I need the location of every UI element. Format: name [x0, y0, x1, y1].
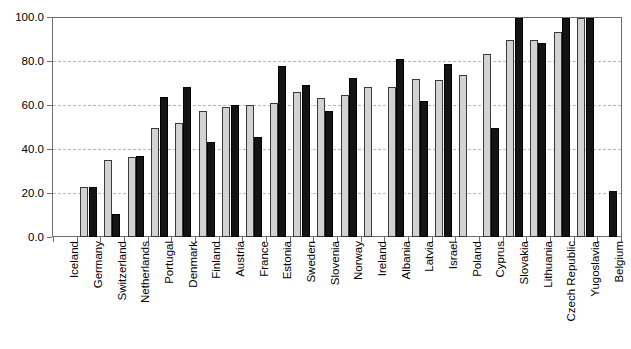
bar-group	[597, 18, 621, 237]
bar-denmark-s1	[175, 123, 183, 237]
bar-group	[171, 18, 195, 237]
bar-albania-s1	[388, 87, 396, 237]
bar-cyprus-s2	[491, 128, 499, 238]
bar-sweden-s1	[293, 92, 301, 237]
bar-lithuania-s1	[530, 40, 538, 237]
bar-belgium-s2	[609, 191, 617, 237]
x-axis-labels: IcelandGermanySwitzerlandNetherlandsPort…	[53, 241, 621, 349]
bar-group	[455, 18, 479, 237]
x-label-portugal: Portugal	[164, 241, 176, 284]
y-tick-label: 20.0	[0, 188, 44, 200]
y-axis-labels: 100.0 80.0 60.0 40.0 20.0 0.0	[0, 0, 48, 349]
x-label-denmark: Denmark	[188, 241, 200, 288]
bar-group	[242, 18, 266, 237]
x-label-belgium: Belgium	[614, 241, 626, 283]
bar-norway-s1	[341, 95, 349, 237]
bar-denmark-s2	[183, 87, 191, 237]
bar-austria-s2	[231, 105, 239, 237]
bar-ireland-s1	[364, 87, 372, 237]
bar-chart: 100.0 80.0 60.0 40.0 20.0 0.0 IcelandGer…	[0, 0, 631, 349]
bar-group	[290, 18, 314, 237]
x-label-lithuania: Lithuania	[543, 241, 555, 288]
x-label-norway: Norway	[353, 241, 365, 280]
bar-netherlands-s1	[128, 157, 136, 237]
x-label-albania: Albania	[401, 241, 413, 279]
bar-portugal-s1	[151, 128, 159, 238]
y-tick-mark	[47, 237, 52, 238]
bar-group	[266, 18, 290, 237]
bar-group	[77, 18, 101, 237]
bar-group	[432, 18, 456, 237]
bar-group	[313, 18, 337, 237]
bar-latvia-s1	[412, 79, 420, 237]
bar-group	[526, 18, 550, 237]
x-label-netherlands: Netherlands	[140, 241, 152, 303]
bar-slovenia-s2	[325, 111, 333, 237]
bar-israel-s1	[435, 80, 443, 237]
y-tick-label: 60.0	[0, 100, 44, 112]
x-label-yugoslavia: Yugoslavia	[590, 241, 602, 297]
bar-austria-s1	[222, 107, 230, 237]
bar-group	[574, 18, 598, 237]
bar-switzerland-s1	[104, 160, 112, 237]
bar-group	[503, 18, 527, 237]
bar-group	[337, 18, 361, 237]
bar-finland-s2	[207, 142, 215, 237]
y-tick-label: 100.0	[0, 12, 44, 24]
bar-france-s2	[254, 137, 262, 237]
bar-latvia-s2	[420, 101, 428, 237]
x-label-sweden: Sweden	[306, 241, 318, 283]
x-label-czech-republic: Czech Republic	[566, 241, 578, 322]
bar-israel-s2	[444, 64, 452, 237]
bar-group	[148, 18, 172, 237]
x-label-latvia: Latvia	[424, 241, 436, 272]
bar-slovakia-s1	[506, 40, 514, 237]
bar-cyprus-s1	[483, 54, 491, 237]
x-label-finland: Finland	[211, 241, 223, 279]
bar-germany-s2	[89, 187, 97, 237]
x-label-switzerland: Switzerland	[117, 241, 129, 300]
bar-poland-s1	[459, 75, 467, 237]
bar-slovakia-s2	[515, 18, 523, 237]
x-label-austria: Austria	[235, 241, 247, 277]
bar-czech-republic-s1	[554, 32, 562, 237]
bar-group	[124, 18, 148, 237]
bar-group	[361, 18, 385, 237]
x-label-cyprus: Cyprus	[495, 241, 507, 277]
bar-germany-s1	[80, 187, 88, 237]
x-label-estonia: Estonia	[282, 241, 294, 279]
bar-group	[384, 18, 408, 237]
bar-estonia-s1	[270, 103, 278, 237]
bar-slovenia-s1	[317, 98, 325, 237]
bar-lithuania-s2	[538, 43, 546, 237]
bar-group	[479, 18, 503, 237]
bar-france-s1	[246, 105, 254, 237]
x-label-iceland: Iceland	[69, 241, 81, 278]
bar-netherlands-s2	[136, 156, 144, 237]
bar-czech-republic-s2	[562, 18, 570, 237]
bar-norway-s2	[349, 78, 357, 237]
x-label-israel: Israel	[448, 241, 460, 269]
bar-group	[550, 18, 574, 237]
y-tick-label: 0.0	[0, 232, 44, 244]
bar-yugoslavia-s2	[586, 18, 594, 237]
bar-albania-s2	[396, 59, 404, 237]
bar-group	[100, 18, 124, 237]
bar-yugoslavia-s1	[577, 18, 585, 237]
bar-estonia-s2	[278, 66, 286, 237]
bar-group	[195, 18, 219, 237]
x-label-france: France	[259, 241, 271, 277]
bar-group	[53, 18, 77, 237]
bar-group	[408, 18, 432, 237]
x-label-slovakia: Slovakia	[519, 241, 531, 284]
y-tick-label: 40.0	[0, 144, 44, 156]
bar-switzerland-s2	[112, 214, 120, 237]
x-label-poland: Poland	[472, 241, 484, 277]
bar-group	[219, 18, 243, 237]
bar-finland-s1	[199, 111, 207, 237]
y-tick-label: 80.0	[0, 56, 44, 68]
x-label-germany: Germany	[93, 241, 105, 288]
bars-layer	[53, 18, 621, 237]
x-label-ireland: Ireland	[377, 241, 389, 276]
bar-sweden-s2	[302, 85, 310, 237]
